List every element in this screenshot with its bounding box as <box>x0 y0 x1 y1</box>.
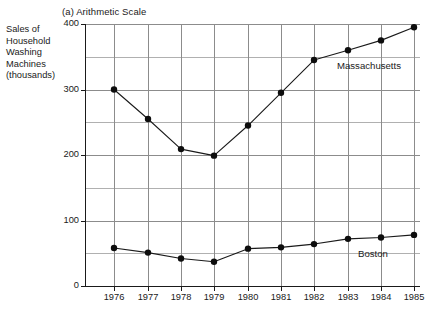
series-line-massachusetts <box>114 27 414 155</box>
y-axis-tick-label: 0 <box>53 280 79 290</box>
data-point <box>345 47 351 53</box>
y-axis-title-line: Washing <box>6 47 62 59</box>
x-axis-tick-label: 1984 <box>364 292 398 302</box>
data-point <box>311 57 317 63</box>
x-axis-tick-label: 1977 <box>131 292 165 302</box>
y-axis-title-line: Machines <box>6 59 62 71</box>
x-axis-tick-label: 1983 <box>331 292 365 302</box>
y-axis-tick-label: 200 <box>53 149 79 159</box>
data-point <box>378 234 384 240</box>
data-point <box>145 116 151 122</box>
series-label-massachusetts: Massachusetts <box>337 60 401 71</box>
x-axis-tick-mark <box>348 287 349 291</box>
data-point <box>178 146 184 152</box>
y-axis-title-line: Household <box>6 36 62 48</box>
x-axis-tick-label: 1982 <box>297 292 331 302</box>
data-point <box>311 241 317 247</box>
data-point <box>411 24 417 30</box>
y-axis-tick-label: 300 <box>53 84 79 94</box>
x-axis-tick-mark <box>314 287 315 291</box>
data-point <box>245 245 251 251</box>
chart-figure: (a) Arithmetic Scale Sales of Household … <box>0 0 431 312</box>
y-axis-title-line: (thousands) <box>6 70 62 82</box>
x-axis-tick-mark <box>414 287 415 291</box>
x-axis-tick-mark <box>381 287 382 291</box>
data-point <box>145 249 151 255</box>
y-axis-tick-label: 400 <box>53 18 79 28</box>
data-point <box>278 244 284 250</box>
data-point <box>178 255 184 261</box>
data-point <box>345 236 351 242</box>
data-point <box>211 152 217 158</box>
y-axis-title: Sales of Household Washing Machines (tho… <box>6 24 62 82</box>
series-label-boston: Boston <box>358 248 388 259</box>
x-axis-tick-mark <box>281 287 282 291</box>
data-point <box>378 37 384 43</box>
x-axis-tick-mark <box>148 287 149 291</box>
x-axis-tick-mark <box>114 287 115 291</box>
x-axis-tick-label: 1985 <box>397 292 431 302</box>
x-axis-tick-label: 1976 <box>97 292 131 302</box>
x-axis-tick-mark <box>181 287 182 291</box>
x-axis-tick-label: 1979 <box>197 292 231 302</box>
y-axis-tick-label: 100 <box>53 215 79 225</box>
data-point <box>278 90 284 96</box>
x-axis-tick-mark <box>214 287 215 291</box>
data-point <box>245 122 251 128</box>
x-axis-tick-label: 1980 <box>231 292 265 302</box>
data-point <box>211 259 217 265</box>
data-point <box>411 232 417 238</box>
x-axis-tick-label: 1981 <box>264 292 298 302</box>
x-axis-tick-mark <box>248 287 249 291</box>
plot-area: Massachusetts Boston <box>85 24 420 287</box>
data-point <box>111 86 117 92</box>
data-point <box>111 245 117 251</box>
series-markers-massachusetts <box>111 24 417 159</box>
x-axis-tick-label: 1978 <box>164 292 198 302</box>
chart-title: (a) Arithmetic Scale <box>62 6 146 17</box>
